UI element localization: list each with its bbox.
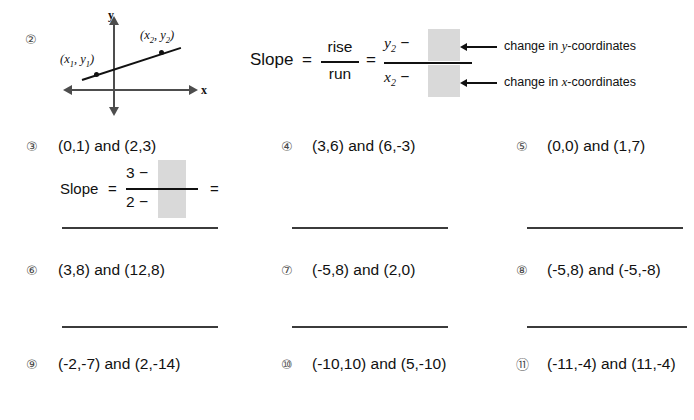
coordinate-fraction-bar <box>384 62 472 64</box>
item-number-10: ⑩ <box>281 358 293 371</box>
rise-label: rise <box>320 38 360 56</box>
callout-bottom-text: change in x-coordinates <box>504 75 636 90</box>
problem-text-7: (-5,8) and (2,0) <box>312 262 415 278</box>
x-axis <box>71 89 191 91</box>
rise-over-run-fraction: rise run <box>320 34 360 90</box>
worked-fraction: 3 − 2 − <box>126 160 206 218</box>
problem-text-4: (3,6) and (6,-3) <box>312 138 415 154</box>
worked-equals-1: = <box>108 180 117 197</box>
slope-label: Slope <box>250 50 293 70</box>
point-2-label: (x2, y2) <box>140 28 174 45</box>
item-number-11: ⑪ <box>516 358 529 371</box>
worked-numerator-lead: 3 − <box>126 164 160 182</box>
item-number-8: ⑧ <box>516 264 528 277</box>
y-axis-arrow-down <box>109 107 119 116</box>
worked-equals-2: = <box>210 180 219 197</box>
numerator-lead: y2 − <box>384 34 430 54</box>
problem-text-9: (-2,-7) and (2,-14) <box>58 356 180 372</box>
denominator-lead: x2 − <box>384 68 430 88</box>
coordinate-difference-fraction: y2 − x2 − <box>384 28 476 98</box>
answer-line-8[interactable] <box>527 326 687 328</box>
problem-text-3: (0,1) and (2,3) <box>58 138 156 154</box>
answer-line-7[interactable] <box>292 326 448 328</box>
formula-equals-1: = <box>302 50 312 70</box>
coordinate-graph: x y (x1, y1) (x2, y2) <box>60 8 235 118</box>
callout-arrow-bottom-shaft <box>467 82 497 84</box>
worked-slope-example: Slope = 3 − 2 − = <box>60 160 260 220</box>
answer-line-3[interactable] <box>62 227 218 229</box>
callout-arrow-top-head <box>460 43 467 51</box>
point-1-marker <box>94 72 99 77</box>
x-axis-arrow-right <box>189 85 198 95</box>
y-axis <box>113 24 115 110</box>
denominator-blank[interactable] <box>428 65 460 97</box>
answer-line-6[interactable] <box>62 326 218 328</box>
problem-text-10: (-10,10) and (5,-10) <box>312 356 446 372</box>
item-number-7: ⑦ <box>281 264 293 277</box>
problem-text-11: (-11,-4) and (11,-4) <box>547 356 676 372</box>
worked-denominator-lead: 2 − <box>126 193 160 211</box>
item-number-3: ③ <box>26 140 38 153</box>
callout-top-text: change in y-coordinates <box>504 39 636 54</box>
x-axis-arrow-left <box>63 85 72 95</box>
callout-arrow-top-shaft <box>467 46 497 48</box>
worked-denominator-blank[interactable] <box>158 190 186 218</box>
slope-formula: Slope = rise run = y2 − x2 − <box>250 28 470 98</box>
point-1-label: (x1, y1) <box>60 52 94 69</box>
answer-line-5[interactable] <box>527 227 683 229</box>
problem-text-8: (-5,8) and (-5,-8) <box>547 262 661 278</box>
worksheet-page: ② x y (x1, y1) (x2, y2) Slope = rise run <box>0 0 694 420</box>
run-label: run <box>320 65 360 83</box>
numerator-blank[interactable] <box>428 29 460 61</box>
answer-line-4[interactable] <box>292 227 448 229</box>
item-number-6: ⑥ <box>26 264 38 277</box>
callout-arrow-bottom-head <box>460 79 467 87</box>
item-number-4: ④ <box>281 140 293 153</box>
worked-slope-label: Slope <box>60 180 98 197</box>
point-2-marker <box>159 50 164 55</box>
rise-run-bar <box>321 61 359 63</box>
y-axis-label: y <box>108 8 114 23</box>
problem-text-5: (0,0) and (1,7) <box>547 138 645 154</box>
item-number-2: ② <box>25 33 37 46</box>
problem-text-6: (3,8) and (12,8) <box>58 262 165 278</box>
x-axis-label: x <box>201 83 207 98</box>
item-number-9: ⑨ <box>26 358 38 371</box>
item-number-5: ⑤ <box>516 140 528 153</box>
formula-equals-2: = <box>366 50 376 70</box>
worked-numerator-blank[interactable] <box>158 160 186 188</box>
